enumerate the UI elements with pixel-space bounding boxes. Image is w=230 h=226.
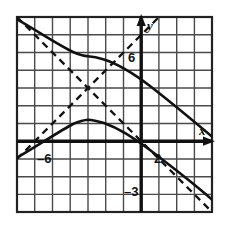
y-tick-label-negative-3: –3 <box>124 184 138 199</box>
graph-figure: –6 2 6 –3 y x <box>0 0 230 226</box>
y-tick-label-6: 6 <box>128 50 135 65</box>
x-axis-label: x <box>198 123 206 138</box>
x-tick-label-negative-6: –6 <box>37 151 51 166</box>
y-axis-label: y <box>145 18 153 33</box>
coordinate-plane-svg: –6 2 6 –3 y x <box>0 0 230 226</box>
x-tick-label-2: 2 <box>154 151 161 166</box>
